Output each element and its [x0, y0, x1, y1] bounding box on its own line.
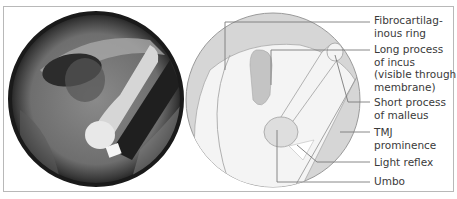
label-light-reflex: Light reflex — [374, 156, 433, 169]
label-fibrocartilaginous-ring: Fibrocartilag- inous ring — [374, 14, 443, 39]
label-long-process-incus: Long process of incus (visible through m… — [374, 43, 456, 93]
tympanic-diagram — [186, 13, 360, 195]
label-tmj-prominence: TMJ prominence — [374, 126, 436, 151]
label-umbo: Umbo — [374, 175, 405, 188]
label-short-process-malleus: Short process of malleus — [374, 96, 446, 121]
otoscopic-photo — [9, 12, 185, 186]
